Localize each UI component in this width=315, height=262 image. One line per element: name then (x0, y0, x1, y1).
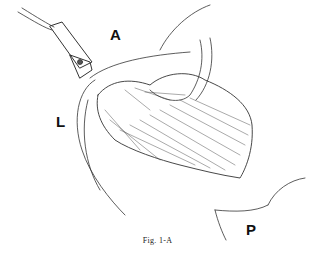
cable-line (18, 12, 52, 30)
anatomical-illustration (0, 0, 315, 262)
anterior-label: A (110, 26, 121, 43)
camera-probe-icon (50, 22, 92, 68)
lateral-label: L (56, 113, 65, 130)
figure-caption: Fig. 1-A (0, 236, 315, 245)
figure-1a: A L P Fig. 1-A (0, 0, 315, 262)
